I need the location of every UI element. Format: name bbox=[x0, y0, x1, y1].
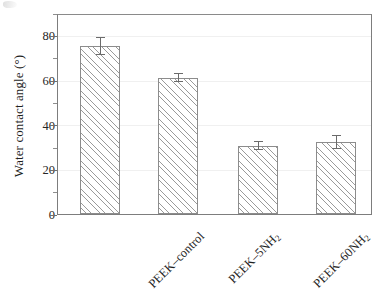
x-tick-label-peek-control: PEEK–control bbox=[146, 230, 207, 291]
bar-peek-control[interactable] bbox=[80, 46, 120, 214]
bar-peek-5nh2[interactable] bbox=[158, 78, 198, 214]
error-bar-peek-60nh2 bbox=[238, 141, 278, 150]
plot-area bbox=[57, 14, 372, 215]
bar-peek-60nh2[interactable] bbox=[238, 146, 278, 214]
error-bar-peek-180nh2 bbox=[316, 135, 356, 149]
y-major-tick-40 bbox=[50, 125, 57, 126]
error-bar-peek-5nh2 bbox=[158, 73, 198, 82]
scan-artifact bbox=[3, 1, 17, 8]
y-major-tick-20 bbox=[50, 170, 57, 171]
x-tick-label-peek-60nh2: PEEK–60NH2 bbox=[311, 230, 374, 293]
x-tick-label-peek-5nh2: PEEK–5NH2 bbox=[226, 230, 284, 288]
y-tick-label-40: 40 bbox=[43, 120, 56, 132]
y-major-tick-0 bbox=[50, 215, 57, 216]
bar-peek-180nh2[interactable] bbox=[316, 142, 356, 214]
y-major-tick-80 bbox=[50, 36, 57, 37]
chart-figure: Water contact angle (°) 80 60 40 20 0 bbox=[0, 0, 390, 303]
y-major-tick-60 bbox=[50, 81, 57, 82]
error-bar-peek-control bbox=[80, 37, 120, 55]
y-axis-title: Water contact angle (°) bbox=[11, 21, 27, 211]
